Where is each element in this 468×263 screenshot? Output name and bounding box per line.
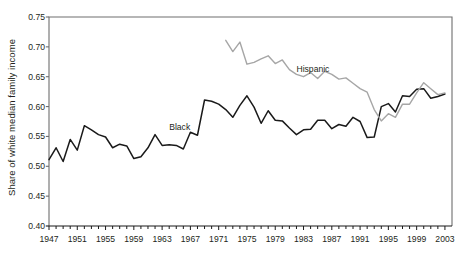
x-tick-label: 1951 xyxy=(68,234,87,244)
x-tick-label: 1987 xyxy=(322,234,341,244)
y-axis-title-text: Share of white median family income xyxy=(6,39,17,196)
x-axis-ticks xyxy=(49,226,445,230)
x-tick-label: 1979 xyxy=(266,234,285,244)
x-tick-label: 1959 xyxy=(124,234,143,244)
x-tick-label: 1971 xyxy=(209,234,228,244)
x-tick-label: 1955 xyxy=(96,234,115,244)
x-tick-label: 1967 xyxy=(181,234,200,244)
y-axis-tick-labels: 0.400.450.500.550.600.650.700.75 xyxy=(19,0,45,263)
x-tick-label: 2003 xyxy=(435,234,454,244)
x-tick-label: 1999 xyxy=(407,234,426,244)
x-tick-label: 1963 xyxy=(153,234,172,244)
y-tick-label: 0.55 xyxy=(19,131,45,141)
x-tick-label: 1975 xyxy=(237,234,256,244)
plot-frame xyxy=(49,17,452,226)
series-line-hispanic xyxy=(226,40,445,121)
x-tick-label: 1983 xyxy=(294,234,313,244)
y-tick-label: 0.75 xyxy=(19,12,45,22)
y-tick-label: 0.40 xyxy=(19,221,45,231)
y-tick-label: 0.65 xyxy=(19,72,45,82)
series-annotation-black: Black xyxy=(169,122,190,132)
series-annotation-hispanic: Hispanic xyxy=(296,64,329,74)
y-tick-label: 0.50 xyxy=(19,161,45,171)
x-tick-label: 1995 xyxy=(379,234,398,244)
x-tick-label: 1947 xyxy=(39,234,58,244)
plot-area xyxy=(0,0,468,263)
series-line-black xyxy=(49,89,445,162)
chart-figure: Share of white median family income 0.40… xyxy=(0,0,468,263)
y-tick-label: 0.45 xyxy=(19,191,45,201)
y-tick-label: 0.60 xyxy=(19,102,45,112)
y-tick-label: 0.70 xyxy=(19,42,45,52)
data-series-group xyxy=(49,40,445,161)
x-tick-label: 1991 xyxy=(351,234,370,244)
